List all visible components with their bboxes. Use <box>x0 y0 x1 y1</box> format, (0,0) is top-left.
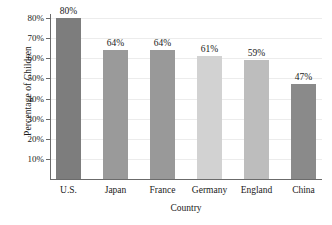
bar-value-label: 47% <box>295 72 312 82</box>
bar: 64%France <box>150 50 175 179</box>
chart-figure: Percentage of Children 10%20%30%40%50%60… <box>0 0 332 225</box>
x-tick-label: Germany <box>192 185 227 195</box>
y-tick-label: 70% <box>28 33 45 43</box>
y-tick-mark <box>46 139 50 140</box>
y-tick-label: 80% <box>28 13 45 23</box>
y-tick-mark <box>46 38 50 39</box>
y-tick-mark <box>46 18 50 19</box>
y-tick-mark <box>46 78 50 79</box>
y-tick-label: 20% <box>28 134 45 144</box>
y-tick-mark <box>46 119 50 120</box>
bar-value-label: 59% <box>248 48 265 58</box>
x-tick-label: Japan <box>105 185 127 195</box>
bar-value-label: 64% <box>107 38 124 48</box>
x-tick-label: China <box>292 185 315 195</box>
bar: 80%U.S. <box>56 18 81 179</box>
y-tick-mark <box>46 99 50 100</box>
gridline <box>51 139 322 140</box>
y-tick-label: 30% <box>28 114 45 124</box>
bar: 59%England <box>244 60 269 179</box>
y-tick-label: 60% <box>28 53 45 63</box>
y-tick-mark <box>46 159 50 160</box>
y-tick-label: 10% <box>28 154 45 164</box>
plot-area: 10%20%30%40%50%60%70%80% 80%U.S.64%Japan… <box>50 14 322 180</box>
bar-value-label: 64% <box>154 38 171 48</box>
x-tick-label: France <box>150 185 176 195</box>
y-tick-label: 50% <box>28 73 45 83</box>
gridline <box>51 119 322 120</box>
gridline <box>51 99 322 100</box>
gridline <box>51 18 322 19</box>
bar: 64%Japan <box>103 50 128 179</box>
gridline <box>51 38 322 39</box>
bar-value-label: 61% <box>201 44 218 54</box>
gridline <box>51 78 322 79</box>
x-axis-title: Country <box>50 203 322 213</box>
y-tick-mark <box>46 58 50 59</box>
bar-value-label: 80% <box>60 6 77 16</box>
gridline <box>51 159 322 160</box>
y-tick-label: 40% <box>28 94 45 104</box>
bar: 47%China <box>291 84 316 179</box>
bar: 61%Germany <box>197 56 222 179</box>
gridline <box>51 58 322 59</box>
x-tick-label: U.S. <box>60 185 77 195</box>
x-tick-label: England <box>241 185 273 195</box>
